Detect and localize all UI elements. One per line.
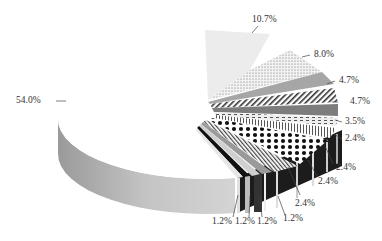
label-4-7-a: 4.7% [339, 76, 359, 86]
label-2-4-a: 2.4% [345, 134, 365, 144]
label-4-7-b: 4.7% [350, 97, 370, 107]
label-8-0: 8.0% [314, 50, 334, 60]
label-2-4-c: 2.4% [318, 177, 338, 187]
label-54: 54.0% [16, 96, 41, 106]
label-1-2-c: 1.2% [257, 217, 277, 227]
label-1-2-a: 1.2% [212, 217, 232, 227]
pie-chart [0, 0, 382, 241]
label-1-2-b: 1.2% [235, 217, 255, 227]
label-3-5: 3.5% [345, 117, 365, 127]
label-10-7: 10.7% [252, 15, 277, 25]
label-1-2-d: 1.2% [283, 214, 303, 224]
label-2-4-d: 2.4% [295, 199, 315, 209]
label-2-4-b: 2.4% [336, 163, 356, 173]
